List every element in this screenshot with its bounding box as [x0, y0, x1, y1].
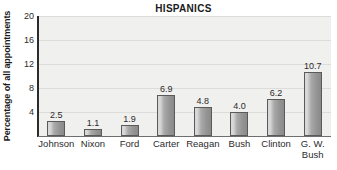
x-axis-tick-label: G. W.Bush: [291, 138, 335, 160]
bar-value-label: 1.1: [75, 118, 112, 128]
bar-slot: 1.1: [75, 16, 112, 136]
bar-value-label: 6.9: [148, 84, 185, 94]
y-axis-tick-label: 20: [0, 12, 34, 21]
bar-value-label: 4.0: [221, 101, 258, 111]
y-axis-tick-labels: 48121620: [0, 0, 34, 170]
bar[interactable]: [194, 107, 212, 136]
bar-value-label: 10.7: [294, 61, 331, 71]
bar[interactable]: [157, 95, 175, 136]
bar-value-label: 4.8: [185, 96, 222, 106]
y-axis-tick-label: 4: [0, 108, 34, 117]
bar[interactable]: [230, 112, 248, 136]
bar-value-label: 1.9: [111, 114, 148, 124]
bar-slot: 6.9: [148, 16, 185, 136]
bar[interactable]: [304, 72, 322, 136]
bar-slot: 1.9: [111, 16, 148, 136]
bar[interactable]: [47, 121, 65, 136]
bar[interactable]: [84, 129, 102, 136]
bar-slot: 2.5: [38, 16, 75, 136]
bar-slot: 6.2: [258, 16, 295, 136]
bar-value-label: 2.5: [38, 110, 75, 120]
x-axis-tick-labels: JohnsonNixonFordCarterReaganBushClintonG…: [38, 138, 331, 168]
bar-value-label: 6.2: [258, 88, 295, 98]
bar-slot: 10.7: [294, 16, 331, 136]
plot-area: 2.51.11.96.94.84.06.210.7: [38, 16, 331, 136]
x-axis-line: [38, 136, 331, 137]
bar[interactable]: [121, 125, 139, 136]
chart-figure: HISPANICS Percentage of all appointments…: [0, 0, 337, 170]
bar-slot: 4.0: [221, 16, 258, 136]
bar[interactable]: [267, 99, 285, 136]
chart-title: HISPANICS: [36, 2, 331, 15]
y-axis-tick-label: 16: [0, 36, 34, 45]
y-axis-line: [37, 16, 39, 137]
y-axis-tick-label: 8: [0, 84, 34, 93]
bar-slot: 4.8: [185, 16, 222, 136]
y-axis-tick-label: 12: [0, 60, 34, 69]
